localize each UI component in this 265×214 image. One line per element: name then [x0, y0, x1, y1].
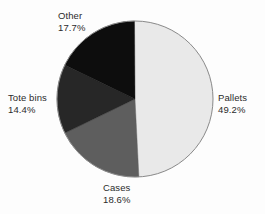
- pie-label-other-name: Other: [58, 10, 85, 22]
- pie-label-tote-bins-name: Tote bins: [8, 92, 47, 104]
- pie-slice-group: [57, 21, 213, 177]
- pie-label-tote-bins: Tote bins 14.4%: [8, 92, 47, 116]
- pie-label-cases-name: Cases: [103, 182, 130, 194]
- pie-label-tote-bins-value: 14.4%: [8, 104, 47, 116]
- pie-label-pallets-value: 49.2%: [218, 104, 247, 116]
- pie-label-other-value: 17.7%: [58, 22, 85, 34]
- pie-label-pallets-name: Pallets: [218, 92, 247, 104]
- pie-slice-pallets: [135, 21, 213, 177]
- pie-label-other: Other 17.7%: [58, 10, 85, 34]
- pie-label-cases: Cases 18.6%: [103, 182, 130, 206]
- pie-label-pallets: Pallets 49.2%: [218, 92, 247, 116]
- pie-label-cases-value: 18.6%: [103, 194, 130, 206]
- pie-chart: Pallets 49.2% Cases 18.6% Tote bins 14.4…: [0, 0, 265, 214]
